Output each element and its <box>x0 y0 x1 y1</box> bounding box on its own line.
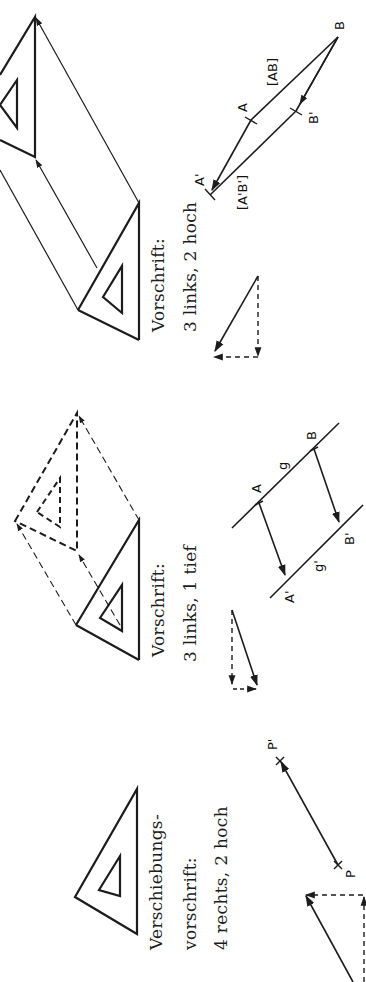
label-B: B <box>333 21 346 30</box>
label-B-prime: B' <box>343 533 356 546</box>
panel-3-caption-line2: 3 links, 2 hoch <box>182 202 199 332</box>
panel-1-caption-line1: Verschiebungs- <box>148 814 165 950</box>
label-B: B <box>305 431 318 440</box>
label-segment-AB: [AB] <box>266 58 279 86</box>
panel-2-vector-triangle <box>232 610 257 689</box>
panel-2-parallel-lines <box>232 423 363 598</box>
label-A-prime: A' <box>193 174 206 186</box>
label-g: g <box>276 462 289 470</box>
label-A: A <box>250 484 263 493</box>
panel-3-set-square-translation <box>0 17 139 340</box>
panel-2-caption-line2: 3 links, 1 tief <box>182 545 199 662</box>
label-A-prime: A' <box>283 591 296 603</box>
label-segment-AB-prime: [A'B'] <box>236 175 249 210</box>
panel-3-vector-triangle <box>214 276 258 357</box>
panel-1-set-square <box>75 789 137 934</box>
panel-3-caption-line1: Vorschrift: <box>150 238 167 332</box>
label-P: P <box>344 870 357 878</box>
label-B-prime: B' <box>307 112 320 125</box>
panel-1-vector-triangle <box>306 895 364 982</box>
label-g-prime: g' <box>312 560 325 572</box>
geometry-figures <box>0 0 366 982</box>
panel-2-set-square-translation <box>15 413 139 660</box>
label-P-prime: P' <box>266 739 279 750</box>
label-A: A <box>236 103 249 112</box>
panel-1-caption-line3: 4 rechts, 2 hoch <box>213 806 230 950</box>
textbook-page: Vorschrift: 3 links, 2 hoch Vorschrift: … <box>0 0 366 982</box>
panel-2-caption-line1: Vorschrift: <box>150 563 167 657</box>
panel-1-caption-line2: vorschrift: <box>182 857 199 950</box>
panel-1-point-translation <box>276 757 342 869</box>
